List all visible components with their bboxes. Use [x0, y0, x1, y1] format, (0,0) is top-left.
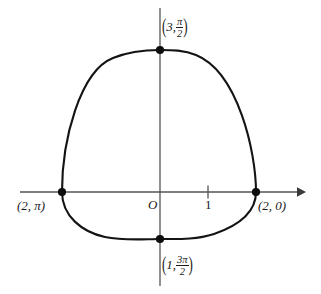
paren-open: ( [162, 254, 166, 274]
point-label-top: (3,π2) [162, 16, 188, 39]
point-label-right: (2, 0) [258, 199, 286, 212]
x-tick-label-1: 1 [205, 198, 212, 211]
paren-close: ) [189, 254, 193, 274]
point-top-angle-fraction: π2 [176, 16, 183, 39]
polar-curve [62, 50, 256, 240]
x-axis-arrowhead [297, 187, 306, 197]
point-bottom-angle-denominator: 2 [176, 266, 189, 277]
paren-open: ( [162, 16, 166, 36]
polar-curve-figure: (3,π2) (1,3π2) (2, π) (2, 0) O 1 [0, 0, 321, 294]
point-label-left: (2, π) [17, 199, 45, 212]
point-label-bottom: (1,3π2) [162, 254, 193, 277]
point-top-angle-denominator: 2 [176, 28, 183, 39]
point-top-angle-numerator: π [176, 16, 183, 28]
polar-plot-canvas [0, 0, 321, 294]
point-bottom-angle-fraction: 3π2 [176, 254, 189, 277]
point-right [252, 188, 260, 196]
point-bottom-angle-numerator: 3π [176, 254, 189, 266]
origin-label: O [148, 198, 157, 211]
paren-close: ) [183, 16, 187, 36]
point-bottom [156, 235, 164, 243]
point-left [58, 188, 66, 196]
point-top [156, 46, 164, 54]
